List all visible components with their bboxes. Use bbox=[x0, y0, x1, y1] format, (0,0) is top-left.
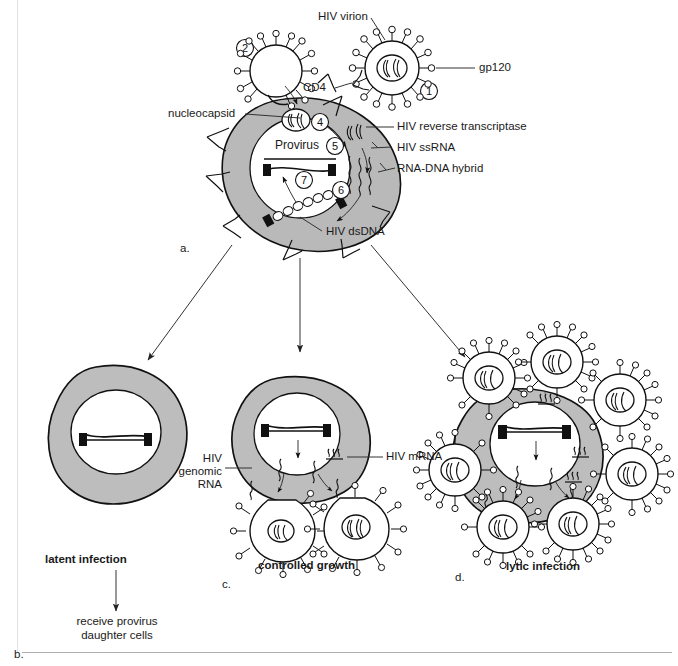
label-hiv-mrna: HIV mRNA bbox=[386, 450, 442, 463]
svg-text:7: 7 bbox=[301, 174, 307, 186]
left-rule bbox=[17, 0, 18, 652]
label-hiv-virion: HIV virion bbox=[318, 10, 368, 23]
fusing-virion bbox=[234, 30, 317, 109]
panel-key-d: d. bbox=[455, 571, 465, 583]
svg-text:6: 6 bbox=[338, 184, 344, 196]
label-cd4: CD4 bbox=[303, 81, 326, 94]
label-provirus: Provirus bbox=[275, 139, 319, 152]
label-genomic-rna-line1: HIV bbox=[140, 452, 222, 465]
panel-key-b: b. bbox=[14, 648, 24, 660]
footer-rule bbox=[22, 652, 672, 653]
caption-lytic-infection: lytic infection bbox=[506, 560, 580, 573]
lytic-virion-7 bbox=[413, 429, 496, 511]
label-genomic-rna-line3: RNA bbox=[140, 478, 222, 491]
panel-a-main-cell: 2 3 4 5 6 7 1 bbox=[148, 18, 475, 360]
panel-key-c: c. bbox=[222, 578, 231, 590]
label-gp120: gp120 bbox=[479, 61, 511, 74]
label-genomic-rna-line2: genomic bbox=[140, 465, 222, 478]
label-reverse-transcriptase: HIV reverse transcriptase bbox=[397, 120, 527, 133]
label-nucleocapsid: nucleocapsid bbox=[168, 107, 235, 120]
label-hiv-ssrna: HIV ssRNA bbox=[397, 141, 455, 154]
step-badge-6: 6 bbox=[333, 182, 350, 199]
lytic-virion-1 bbox=[447, 337, 530, 419]
step-badge-4: 4 bbox=[312, 114, 329, 131]
svg-text:4: 4 bbox=[317, 116, 323, 128]
step-badge-7: 7 bbox=[296, 172, 313, 189]
lytic-virion-3 bbox=[578, 359, 661, 441]
step-badge-5: 5 bbox=[327, 138, 344, 155]
lytic-virion-4 bbox=[590, 433, 673, 515]
svg-text:5: 5 bbox=[332, 140, 338, 152]
caption-latent-infection: latent infection bbox=[45, 553, 127, 566]
label-rna-dna-hybrid: RNA-DNA hybrid bbox=[397, 162, 483, 175]
free-hiv-virion bbox=[349, 26, 435, 110]
branch-arrows bbox=[148, 245, 465, 360]
figure-canvas: 2 3 4 5 6 7 1 bbox=[0, 0, 678, 666]
panel-c-controlled-growth bbox=[225, 377, 407, 578]
panel-key-a: a. bbox=[180, 242, 190, 254]
lytic-virion-6 bbox=[461, 486, 544, 568]
nucleocapsid-core bbox=[282, 109, 310, 131]
lytic-virion-2 bbox=[515, 321, 598, 403]
panel-d-lytic-infection bbox=[413, 321, 673, 568]
outcome-line-1: receive provirus bbox=[38, 615, 196, 628]
outcome-line-2: daughter cells bbox=[38, 629, 196, 642]
caption-controlled-growth: controlled growth bbox=[258, 559, 355, 572]
label-hiv-dsdna: HIV dsDNA bbox=[326, 225, 385, 238]
